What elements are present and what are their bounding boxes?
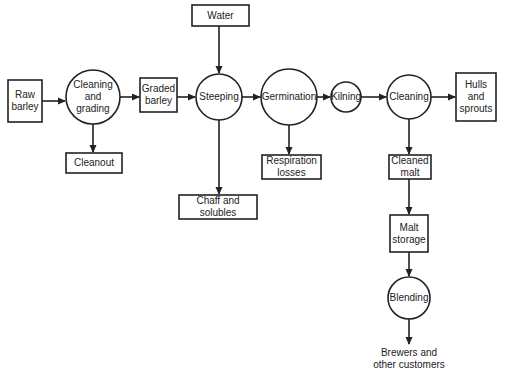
cleanout-label: Cleanout xyxy=(66,153,122,173)
water-label: Water xyxy=(192,5,249,26)
respiration-losses-label: Respiration losses xyxy=(262,155,321,179)
blending-label: Blending xyxy=(388,286,430,310)
cleaning-label: Cleaning xyxy=(387,85,431,109)
kilning-label: Kilning xyxy=(331,85,361,109)
brewers-customers-label: Brewers and other customers xyxy=(369,346,449,372)
graded-barley-label: Graded barley xyxy=(140,78,177,112)
germination-label: Germination xyxy=(261,85,317,109)
flow-diagram-canvas xyxy=(0,0,514,378)
chaff-solubles-label: Chaff and solubles xyxy=(184,195,252,219)
cleaned-malt-label: Cleaned malt xyxy=(389,155,431,179)
hulls-sprouts-label: Hulls and sprouts xyxy=(456,73,496,121)
steeping-label: Steeping xyxy=(196,85,242,109)
cleaning-grading-label: Cleaning and grading xyxy=(70,74,116,120)
malt-storage-label: Malt storage xyxy=(390,215,428,252)
raw-barley-label: Raw barley xyxy=(8,80,42,122)
